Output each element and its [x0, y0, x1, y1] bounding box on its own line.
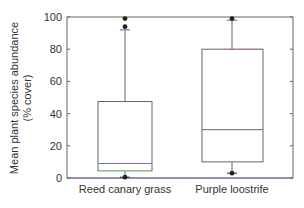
y-tick-label: 60 — [50, 75, 62, 87]
outlier-point — [123, 175, 128, 180]
outlier-point — [230, 16, 235, 21]
x-category-label-purple-loostrife: Purple loostrife — [195, 183, 268, 195]
outlier-point — [230, 171, 235, 176]
box-plot-chart: Mean plant species abundance (% cover) 0… — [0, 0, 304, 208]
y-axis-title-line2: (% cover) — [21, 74, 33, 121]
y-tick-label: 40 — [50, 108, 62, 120]
y-tick-label: 0 — [56, 172, 62, 184]
iqr-box — [202, 49, 263, 162]
y-axis-title: Mean plant species abundance (% cover) — [8, 22, 33, 174]
y-tick-label: 80 — [50, 43, 62, 55]
y-tick-label: 100 — [44, 11, 62, 23]
outlier-point — [123, 24, 128, 29]
boxes — [98, 16, 263, 179]
outlier-point — [123, 16, 128, 21]
y-tick-label: 20 — [50, 140, 62, 152]
x-category-label-reed-canary-grass: Reed canary grass — [79, 183, 172, 195]
box-purple-loostrife — [202, 16, 263, 175]
y-axis-title-line1: Mean plant species abundance — [8, 22, 20, 174]
iqr-box — [98, 102, 152, 171]
box-reed-canary-grass — [98, 16, 152, 179]
